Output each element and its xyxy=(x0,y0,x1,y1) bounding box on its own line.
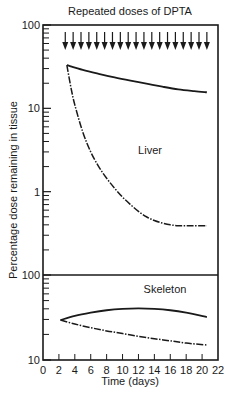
series-liver-dashed xyxy=(67,65,207,226)
dose-arrow xyxy=(102,32,108,50)
plot-frame xyxy=(43,25,218,360)
y-tick-label: 100 xyxy=(22,19,40,31)
series-skeleton-solid xyxy=(61,308,207,320)
panel-label-liver: Liver xyxy=(138,144,162,156)
arrow-head xyxy=(62,42,68,50)
x-tick-label: 0 xyxy=(40,364,46,376)
dose-arrow xyxy=(70,32,76,50)
arrow-head xyxy=(117,42,123,50)
dose-arrow xyxy=(133,32,139,50)
x-tick-label: 22 xyxy=(212,364,224,376)
arrow-head xyxy=(86,42,92,50)
dose-arrow xyxy=(180,32,186,50)
dose-arrow xyxy=(196,32,202,50)
arrow-head xyxy=(204,42,210,50)
dose-arrow xyxy=(62,32,68,50)
x-tick-label: 6 xyxy=(88,364,94,376)
dose-retention-chart: Repeated doses of DPTA 10010110010024681… xyxy=(0,0,234,403)
dose-arrow xyxy=(165,32,171,50)
arrow-head xyxy=(109,42,115,50)
dose-arrow xyxy=(94,32,100,50)
arrow-head xyxy=(78,42,84,50)
arrow-head xyxy=(180,42,186,50)
arrow-head xyxy=(188,42,194,50)
chart-title: Repeated doses of DPTA xyxy=(68,5,193,17)
dose-arrow xyxy=(117,32,123,50)
arrow-head xyxy=(133,42,139,50)
y-axis-label: Percentage dose remaining in tissue xyxy=(7,101,19,279)
arrow-head xyxy=(157,42,163,50)
dose-arrow xyxy=(86,32,92,50)
y-tick-label: 10 xyxy=(28,354,40,366)
dose-arrow xyxy=(78,32,84,50)
x-tick-label: 18 xyxy=(180,364,192,376)
x-tick-label: 20 xyxy=(196,364,208,376)
arrow-head xyxy=(172,42,178,50)
y-tick-label: 1 xyxy=(34,186,40,198)
arrow-head xyxy=(141,42,147,50)
y-tick-label: 10 xyxy=(28,102,40,114)
arrow-head xyxy=(165,42,171,50)
dose-arrow xyxy=(141,32,147,50)
panel-label-skeleton: Skeleton xyxy=(144,283,187,295)
arrow-head xyxy=(149,42,155,50)
dose-arrow xyxy=(157,32,163,50)
x-tick-label: 2 xyxy=(56,364,62,376)
dose-arrow xyxy=(109,32,115,50)
arrow-head xyxy=(102,42,108,50)
x-axis-label: Time (days) xyxy=(101,375,159,387)
series-skeleton-dashed xyxy=(61,320,207,345)
x-tick-label: 4 xyxy=(72,364,78,376)
dose-arrows xyxy=(62,32,210,50)
dose-arrow xyxy=(204,32,210,50)
dose-arrow xyxy=(172,32,178,50)
dose-arrow xyxy=(125,32,131,50)
arrow-head xyxy=(94,42,100,50)
arrow-head xyxy=(196,42,202,50)
arrow-head xyxy=(125,42,131,50)
dose-arrow xyxy=(149,32,155,50)
arrow-head xyxy=(70,42,76,50)
dose-arrow xyxy=(188,32,194,50)
y-tick-label: 100 xyxy=(22,269,40,281)
series-lines xyxy=(61,65,207,345)
plot-border xyxy=(43,25,218,360)
x-tick-label: 16 xyxy=(164,364,176,376)
axis-ticks: 100101100100246810121416182022 xyxy=(22,19,224,376)
series-liver-solid xyxy=(67,65,207,92)
